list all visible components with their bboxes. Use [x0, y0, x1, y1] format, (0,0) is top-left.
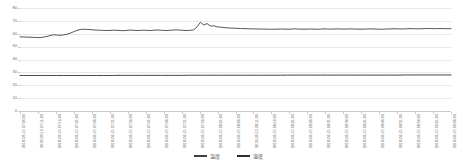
- y-axis-tick-label: 70: [0, 19, 17, 23]
- y-axis-tick-label: 60: [0, 32, 17, 36]
- x-axis-tick-label: 2018-08-15 08:01:00: [219, 114, 223, 148]
- legend-item[interactable]: 湿度: [237, 154, 263, 159]
- x-axis-tick-label: 2018-08-15 08:06:00: [237, 114, 241, 148]
- y-axis-tick-mark: [18, 47, 20, 48]
- x-axis-tick-label: 2018-08-15 08:41:00: [363, 114, 367, 148]
- x-axis-tick-label: 2018-08-15 07:16:00: [58, 114, 62, 148]
- y-axis-tick-label: 0: [0, 109, 17, 113]
- x-axis-tick-label: 2018-08-15 08:36:00: [345, 114, 349, 148]
- x-axis-tick-label: 2018-08-15 08:26:00: [309, 114, 313, 148]
- x-axis-tick-label: 2018-08-15 09:06:00: [453, 114, 457, 148]
- x-axis-tick-label: 2018-08-15 07:36:00: [129, 114, 133, 148]
- y-axis-tick-mark: [18, 21, 20, 22]
- y-axis-tick-label: 30: [0, 70, 17, 74]
- x-axis-tick-label: 2018-08-15 07:41:00: [147, 114, 151, 148]
- y-axis-tick-mark: [18, 72, 20, 73]
- x-axis-tick-label: 2018-08-15 08:56:00: [417, 114, 421, 148]
- x-axis-tick-label: 2018-08-15 08:21:00: [291, 114, 295, 148]
- x-axis-tick-label: 2018-08-15 07:46:00: [165, 114, 169, 148]
- series-line: [20, 75, 451, 76]
- chart-legend: 温度湿度: [0, 150, 457, 162]
- x-axis-tick-label: 2018-08-15 07:56:00: [201, 114, 205, 148]
- y-axis-tick-label: 10: [0, 96, 17, 100]
- x-axis-labels: 2018-08-15 07:06:002018-08-15 07:11:0020…: [20, 112, 451, 148]
- legend-item[interactable]: 温度: [194, 154, 220, 159]
- line-chart: 80706050403020100 2018-08-15 07:06:00201…: [0, 0, 457, 164]
- y-axis-tick-label: 50: [0, 44, 17, 48]
- x-axis-tick-label: 2018-08-15 07:21:00: [75, 114, 79, 148]
- legend-label: 湿度: [253, 154, 263, 159]
- x-axis-tick-label: 2018-08-15 08:51:00: [399, 114, 403, 148]
- y-axis-tick-label: 20: [0, 83, 17, 87]
- x-axis-tick-label: 2018-08-15 08:46:00: [381, 114, 385, 148]
- legend-line-swatch: [237, 155, 250, 157]
- y-axis-tick-mark: [18, 98, 20, 99]
- series-line: [20, 22, 451, 37]
- x-axis-tick-label: 2018-08-15 07:26:00: [93, 114, 97, 148]
- y-axis-tick-mark: [18, 8, 20, 9]
- x-axis-tick-label: 2018-08-15 07:31:00: [111, 114, 115, 148]
- y-axis-tick-mark: [18, 85, 20, 86]
- x-axis-tick-label: 2018-08-15 08:16:00: [273, 114, 277, 148]
- series-lines: [20, 8, 451, 111]
- legend-line-swatch: [194, 155, 207, 157]
- y-axis-tick-mark: [18, 60, 20, 61]
- legend-label: 温度: [210, 154, 220, 159]
- y-axis-tick-label: 80: [0, 6, 17, 10]
- y-axis-tick-mark: [18, 34, 20, 35]
- x-axis-tick-label: 2018-08-15 08:11:00: [255, 114, 259, 148]
- x-axis-tick-label: 2018-08-15 07:06:00: [22, 114, 26, 148]
- y-axis-tick-label: 40: [0, 57, 17, 61]
- x-axis-tick-label: 2018-08-15 09:01:00: [435, 114, 439, 148]
- x-axis-tick-label: 2018-08-15 08:31:00: [327, 114, 331, 148]
- x-axis-tick-label: 2018-08-15 07:11:00: [40, 114, 44, 148]
- x-axis-tick-label: 2018-08-15 07:51:00: [183, 114, 187, 148]
- plot-area: [20, 8, 451, 111]
